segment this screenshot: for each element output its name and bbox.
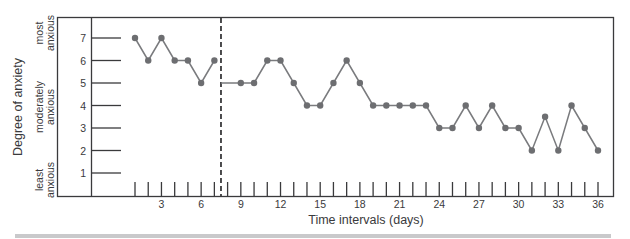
y-annotation-moderately-anxious: moderately anxious (33, 80, 56, 133)
data-point (555, 147, 561, 153)
data-point (251, 80, 257, 86)
y-axis-ticks: 1234567 (80, 32, 121, 179)
data-point (238, 80, 244, 86)
data-point (317, 102, 323, 108)
data-point (489, 102, 495, 108)
data-point (582, 125, 588, 131)
data-point (423, 102, 429, 108)
data-point (330, 80, 336, 86)
data-point (436, 125, 442, 131)
data-point (396, 102, 402, 108)
data-point (145, 57, 151, 63)
data-point (515, 125, 521, 131)
y-annotation-moderately-anxious-2: anxious (44, 89, 56, 125)
data-point (211, 57, 217, 63)
data-point (463, 102, 469, 108)
data-point (343, 57, 349, 63)
x-tick-label-24: 24 (433, 198, 445, 210)
y-annotation-least-anxious: least anxious (33, 162, 56, 198)
y-tick-label-6: 6 (80, 55, 86, 67)
bottom-divider-rule (15, 234, 611, 238)
x-tick-label-36: 36 (592, 198, 604, 210)
y-tick-label-4: 4 (80, 100, 86, 112)
data-point (158, 35, 164, 41)
y-annotation-most-anxious-2: anxious (44, 15, 56, 51)
series-line-2 (221, 61, 598, 151)
x-axis-title: Time intervals (days) (308, 213, 424, 227)
data-point (277, 57, 283, 63)
data-point (132, 35, 138, 41)
data-point (185, 57, 191, 63)
data-point (370, 102, 376, 108)
chart-canvas: Degree of anxiety most anxious moderatel… (0, 0, 630, 239)
series-lines (135, 38, 598, 151)
data-point (449, 125, 455, 131)
x-tick-label-15: 15 (314, 198, 326, 210)
x-tick-label-21: 21 (394, 198, 406, 210)
x-tick-label-9: 9 (238, 198, 244, 210)
y-tick-label-2: 2 (80, 145, 86, 157)
x-tick-label-18: 18 (354, 198, 366, 210)
x-tick-label-6: 6 (198, 198, 204, 210)
y-tick-label-7: 7 (80, 32, 86, 44)
anxiety-line-chart: Degree of anxiety most anxious moderatel… (0, 0, 630, 239)
x-tick-label-12: 12 (275, 198, 287, 210)
y-annotation-most-anxious: most anxious (33, 15, 56, 51)
data-point (304, 102, 310, 108)
data-point (502, 125, 508, 131)
data-point (357, 80, 363, 86)
x-tick-label-33: 33 (552, 198, 564, 210)
data-point (529, 147, 535, 153)
data-point (568, 102, 574, 108)
data-point (198, 80, 204, 86)
chart-frame (58, 18, 614, 197)
data-point (171, 57, 177, 63)
y-tick-label-1: 1 (80, 167, 86, 179)
y-annotation-least-anxious-2: anxious (44, 162, 56, 198)
data-point (476, 125, 482, 131)
x-tick-label-27: 27 (473, 198, 485, 210)
data-point (264, 57, 270, 63)
data-point (383, 102, 389, 108)
x-tick-label-3: 3 (159, 198, 165, 210)
data-point (291, 80, 297, 86)
data-point (595, 147, 601, 153)
y-tick-label-3: 3 (80, 122, 86, 134)
data-point (542, 114, 548, 120)
y-axis-title: Degree of anxiety (11, 57, 25, 156)
y-tick-label-5: 5 (80, 77, 86, 89)
x-tick-label-30: 30 (513, 198, 525, 210)
data-point (410, 102, 416, 108)
